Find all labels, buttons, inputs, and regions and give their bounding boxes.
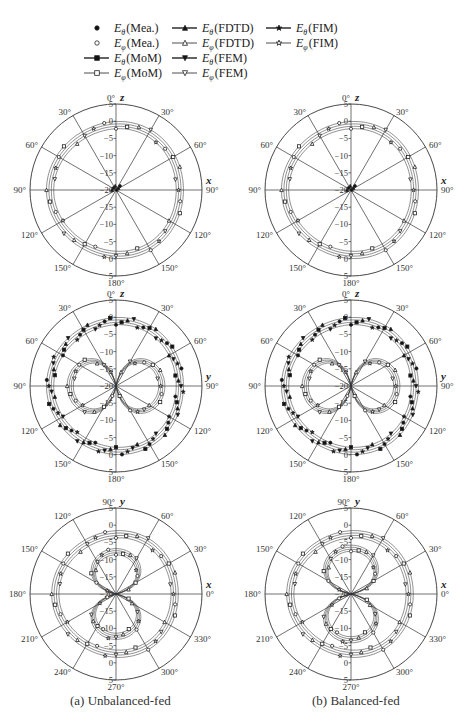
polar-plot-a-xy: 5500−5−5−10−10−15−15−2090°120°60°150°30°… xyxy=(9,495,215,692)
svg-text:−20: −20 xyxy=(335,381,348,391)
angle-label: 240° xyxy=(54,667,72,677)
angle-label: 120° xyxy=(194,230,212,240)
svg-text:0: 0 xyxy=(344,658,348,668)
svg-text:−10: −10 xyxy=(335,151,348,161)
polar-plot-b-xy: 5500−5−5−10−10−15−15−2090°120°60°150°30°… xyxy=(244,495,450,692)
angle-label: 90° xyxy=(102,497,115,507)
svg-text:−15: −15 xyxy=(100,572,113,582)
angle-label: 0° xyxy=(107,93,116,103)
svg-text:0: 0 xyxy=(109,658,113,668)
angle-label: 330° xyxy=(194,634,212,644)
angle-label: 120° xyxy=(429,426,447,436)
polar-plot-a-yz: 5500−5−5−10−10−15−15−200°30°30°60°60°90°… xyxy=(13,287,219,484)
svg-text:−10: −10 xyxy=(100,219,113,229)
angle-label: 240° xyxy=(289,667,307,677)
angle-label: 120° xyxy=(194,426,212,436)
svg-text:z: z xyxy=(354,91,360,103)
svg-text:−15: −15 xyxy=(335,572,348,582)
angle-label: 300° xyxy=(161,667,179,677)
svg-text:x: x xyxy=(440,174,447,186)
angle-label: 30° xyxy=(293,303,306,313)
polar-plot-a-xz: 5500−5−5−10−10−15−15−200°30°30°60°60°90°… xyxy=(13,91,219,288)
angle-label: 180° xyxy=(107,474,125,484)
svg-text:−5: −5 xyxy=(104,237,113,247)
angle-label: 180° xyxy=(342,474,360,484)
svg-text:0: 0 xyxy=(109,520,113,530)
angle-label: 60° xyxy=(260,140,273,150)
svg-text:−15: −15 xyxy=(335,168,348,178)
angle-label: 270° xyxy=(342,682,360,692)
svg-text:−10: −10 xyxy=(335,415,348,425)
svg-text:−5: −5 xyxy=(104,433,113,443)
angle-label: 60° xyxy=(429,336,442,346)
angle-label: 0° xyxy=(342,93,351,103)
caption-unbalanced: (a) Unbalanced-fed xyxy=(70,693,171,709)
svg-text:−5: −5 xyxy=(339,433,348,443)
angle-label: 120° xyxy=(256,230,274,240)
angle-label: 120° xyxy=(289,511,307,521)
angle-label: 150° xyxy=(161,459,179,469)
svg-text:−20: −20 xyxy=(100,381,113,391)
svg-text:−10: −10 xyxy=(100,415,113,425)
svg-text:z: z xyxy=(354,287,360,299)
angle-label: 60° xyxy=(429,140,442,150)
angle-label: 120° xyxy=(256,426,274,436)
svg-text:−5: −5 xyxy=(339,133,348,143)
svg-text:−15: −15 xyxy=(335,606,348,616)
angle-label: 30° xyxy=(161,107,174,117)
angle-label: 90° xyxy=(206,185,219,195)
polar-plot-b-yz: 5500−5−5−10−10−15−15−200°30°30°60°60°90°… xyxy=(248,287,454,484)
svg-text:x: x xyxy=(205,174,212,186)
angle-label: 120° xyxy=(21,230,39,240)
angle-label: 90° xyxy=(13,381,26,391)
svg-text:−15: −15 xyxy=(100,606,113,616)
angle-label: 300° xyxy=(396,667,414,677)
angle-label: 120° xyxy=(54,511,72,521)
angle-label: 210° xyxy=(256,634,274,644)
angle-label: 60° xyxy=(25,336,38,346)
polar-plots: 5500−5−5−10−10−15−15−200°30°30°60°60°90°… xyxy=(0,0,465,721)
angle-label: 30° xyxy=(396,107,409,117)
angle-label: 150° xyxy=(54,263,72,273)
svg-text:y: y xyxy=(118,495,125,507)
angle-label: 0° xyxy=(441,589,450,599)
svg-text:z: z xyxy=(119,91,125,103)
angle-label: 60° xyxy=(396,511,409,521)
angle-label: 60° xyxy=(25,140,38,150)
angle-label: 210° xyxy=(21,634,39,644)
angle-label: 30° xyxy=(161,303,174,313)
svg-text:−15: −15 xyxy=(100,168,113,178)
angle-label: 150° xyxy=(289,263,307,273)
angle-label: 180° xyxy=(9,589,27,599)
svg-text:−5: −5 xyxy=(339,329,348,339)
svg-text:x: x xyxy=(205,578,212,590)
svg-text:−15: −15 xyxy=(100,202,113,212)
angle-label: 150° xyxy=(396,263,414,273)
angle-label: 0° xyxy=(206,589,215,599)
svg-text:0: 0 xyxy=(344,520,348,530)
caption-balanced: (b) Balanced-fed xyxy=(312,693,400,709)
svg-text:−15: −15 xyxy=(335,202,348,212)
svg-text:−10: −10 xyxy=(335,219,348,229)
svg-text:−5: −5 xyxy=(104,329,113,339)
angle-label: 30° xyxy=(194,544,207,554)
angle-label: 150° xyxy=(289,459,307,469)
angle-label: 90° xyxy=(441,381,454,391)
angle-label: 0° xyxy=(342,289,351,299)
angle-label: 60° xyxy=(194,140,207,150)
angle-label: 90° xyxy=(248,381,261,391)
svg-text:y: y xyxy=(439,370,446,382)
polar-plot-b-xz: 5500−5−5−10−10−15−15−200°30°30°60°60°90°… xyxy=(248,91,454,288)
angle-label: 150° xyxy=(54,459,72,469)
svg-text:−10: −10 xyxy=(100,151,113,161)
svg-text:−5: −5 xyxy=(104,133,113,143)
angle-label: 60° xyxy=(161,511,174,521)
angle-label: 150° xyxy=(256,544,274,554)
angle-label: 90° xyxy=(337,497,350,507)
svg-text:−5: −5 xyxy=(339,237,348,247)
angle-label: 0° xyxy=(107,289,116,299)
angle-label: 90° xyxy=(206,381,219,391)
angle-label: 30° xyxy=(429,544,442,554)
angle-label: 30° xyxy=(396,303,409,313)
angle-label: 150° xyxy=(396,459,414,469)
